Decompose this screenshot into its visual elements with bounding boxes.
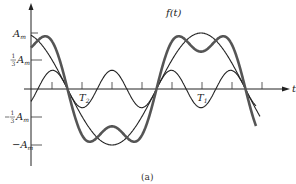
curve-label-f-of-t: f(t) <box>165 7 182 18</box>
svg-text:1: 1 <box>12 52 16 59</box>
vertical-axis-arrow-icon <box>29 3 34 10</box>
figure-caption: (a) <box>141 172 153 182</box>
svg-text:3: 3 <box>11 117 15 124</box>
svg-text:3: 3 <box>12 60 16 67</box>
svg-text:Am: Am <box>16 54 30 66</box>
time-axis-arrow-icon <box>282 87 290 92</box>
time-axis-label: t <box>292 83 296 94</box>
period-label-t1: T1 <box>197 92 208 104</box>
label-pos-full: Am <box>12 28 26 40</box>
label-pos-third: 1 3 Am <box>11 52 31 67</box>
harmonic-waveform-figure: t Am 1 3 Am 1 3 Am −Am T2 T1 f(t) (a) <box>0 0 296 184</box>
svg-text:Am: Am <box>15 111 29 123</box>
label-neg-third: 1 3 Am <box>5 109 29 124</box>
period-label-t2: T2 <box>79 92 90 104</box>
label-neg-full: −Am <box>12 139 34 151</box>
svg-text:1: 1 <box>11 109 15 116</box>
